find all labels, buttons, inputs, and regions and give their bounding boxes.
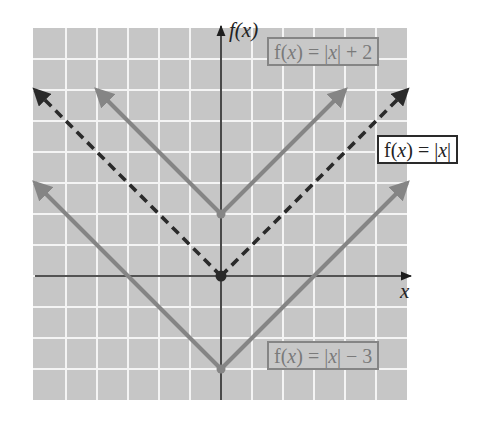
vertex-point: [217, 365, 226, 374]
label-var: x: [328, 345, 337, 367]
y-axis-label: f(x): [229, 20, 258, 41]
x-axis-label: x: [400, 281, 409, 302]
label-part: | + 2: [337, 41, 372, 63]
absolute-value-graph: [0, 0, 492, 424]
label-abs-minus-3: f(x) = |x| − 3: [267, 341, 379, 370]
label-part: ) = |: [296, 41, 328, 63]
label-part: f(: [274, 345, 287, 367]
x-axis-label-text: x: [400, 279, 409, 303]
label-var: x: [397, 139, 406, 161]
vertex-point: [217, 210, 226, 219]
label-part: f(: [274, 41, 287, 63]
label-var: x: [438, 139, 447, 161]
label-var: x: [328, 41, 337, 63]
label-part: f(: [384, 139, 397, 161]
label-var: x: [287, 41, 296, 63]
label-abs-plus-2: f(x) = |x| + 2: [267, 37, 379, 66]
label-part: ) = |: [406, 139, 438, 161]
vertex-point: [216, 271, 227, 282]
label-part: ) = |: [296, 345, 328, 367]
label-var: x: [287, 345, 296, 367]
label-part: |: [447, 139, 451, 161]
label-abs-base: f(x) = |x|: [377, 135, 458, 164]
label-part: | − 3: [337, 345, 372, 367]
y-axis-label-text: f(x): [229, 18, 258, 42]
